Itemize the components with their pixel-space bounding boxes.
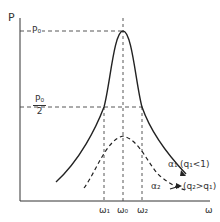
curve-alpha1 — [56, 31, 186, 182]
half-power-denominator: 2 — [33, 106, 46, 116]
x-axis-label: ω — [205, 206, 213, 215]
y-axis-label: P — [8, 12, 15, 23]
w2-label: ω₂ — [137, 206, 148, 215]
half-power-numerator: P₀ — [33, 95, 46, 106]
w1-label: ω₁ — [99, 206, 110, 215]
alpha1-label: α₁ — [168, 160, 178, 169]
alpha2-condition: (q₂>q₁) — [183, 182, 216, 191]
half-power-label: P₀ 2 — [33, 95, 46, 116]
p0-label: P₀ — [31, 26, 42, 35]
alpha1-condition: (q₁<1) — [180, 160, 210, 169]
w0-label: ω₀ — [117, 206, 128, 215]
alpha2-label: α₂ — [151, 182, 161, 191]
arrow-alpha2-icon — [176, 183, 182, 189]
